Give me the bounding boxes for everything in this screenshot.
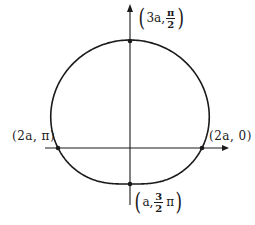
- point-top: [128, 39, 133, 44]
- paren-open: (: [138, 6, 145, 30]
- polar-plot: [0, 0, 255, 225]
- paren-open: (: [134, 190, 141, 214]
- point-right: [200, 146, 205, 151]
- point-bottom: [128, 182, 133, 187]
- frac-numerator: 3: [154, 191, 163, 203]
- label-right-text: (2a, 0): [209, 130, 252, 142]
- paren-close: ): [176, 190, 183, 214]
- label-top-fraction: π 2: [166, 7, 175, 30]
- y-axis-arrow-icon: [127, 4, 133, 12]
- label-bottom: ( a, 3 2 π ): [133, 190, 184, 214]
- label-top: ( 3a, π 2 ): [137, 6, 186, 30]
- label-left: (2a, π): [12, 130, 55, 142]
- label-bottom-suffix: π: [166, 196, 174, 208]
- label-right: (2a, 0): [209, 130, 252, 142]
- paren-close: ): [178, 6, 185, 30]
- frac-denominator: 2: [155, 203, 162, 214]
- x-axis-arrow-icon: [222, 145, 229, 151]
- label-top-prefix: 3a,: [146, 12, 165, 24]
- frac-denominator: 2: [167, 19, 174, 30]
- label-left-text: (2a, π): [12, 130, 55, 142]
- frac-numerator: π: [166, 7, 175, 19]
- label-bottom-prefix: a,: [142, 196, 153, 208]
- point-left: [56, 146, 61, 151]
- label-bottom-fraction: 3 2: [154, 191, 163, 214]
